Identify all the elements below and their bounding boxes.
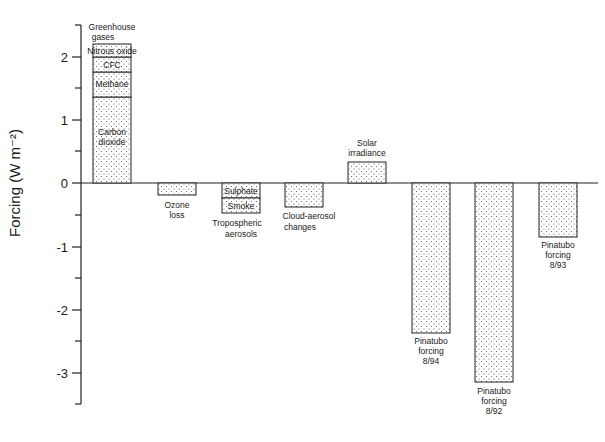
- bar-ozone-loss: [158, 183, 196, 195]
- svg-text:forcing: forcing: [418, 346, 444, 356]
- svg-text:8/94: 8/94: [423, 356, 440, 366]
- bar-pinatubo-8-93: [539, 183, 577, 237]
- y-axis: [72, 25, 81, 404]
- y-axis-label: Forcing (W m⁻²): [6, 129, 23, 237]
- svg-text:Sulphate: Sulphate: [224, 186, 258, 196]
- svg-text:Pinatubo: Pinatubo: [414, 336, 448, 346]
- bar-pinatubo-8-94: [412, 183, 450, 333]
- svg-text:gases: gases: [92, 32, 115, 42]
- svg-text:forcing: forcing: [545, 250, 571, 260]
- svg-text:Tropospheric: Tropospheric: [212, 218, 262, 228]
- bar-pinatubo-8-92: [475, 183, 513, 382]
- svg-text:irradiance: irradiance: [348, 148, 386, 158]
- svg-text:Nitrous oxide: Nitrous oxide: [87, 46, 137, 56]
- svg-text:Greenhouse: Greenhouse: [89, 22, 136, 32]
- svg-text:-3: -3: [56, 366, 68, 381]
- svg-text:Carbon: Carbon: [98, 127, 126, 137]
- svg-text:2: 2: [61, 50, 68, 65]
- svg-text:Methane: Methane: [95, 79, 128, 89]
- svg-text:Cloud-aerosol: Cloud-aerosol: [283, 211, 336, 221]
- svg-text:Solar: Solar: [357, 138, 377, 148]
- svg-text:changes: changes: [284, 222, 316, 232]
- svg-text:dioxide: dioxide: [99, 137, 126, 147]
- bar-cloud-aerosol: [285, 183, 323, 207]
- radiative-forcing-chart: 2 1 0 -1 -2 -3 Forcing (W m⁻²) Greenhous…: [0, 0, 605, 442]
- svg-text:Pinatubo: Pinatubo: [477, 386, 511, 396]
- svg-text:forcing: forcing: [481, 396, 507, 406]
- svg-text:aerosols: aerosols: [225, 229, 257, 239]
- svg-text:Ozone: Ozone: [164, 200, 189, 210]
- svg-text:0: 0: [61, 176, 68, 191]
- svg-text:1: 1: [61, 113, 68, 128]
- svg-text:8/92: 8/92: [486, 406, 503, 416]
- svg-text:loss: loss: [169, 210, 184, 220]
- svg-text:-1: -1: [56, 240, 68, 255]
- svg-text:CFC: CFC: [103, 60, 120, 70]
- svg-text:Smoke: Smoke: [228, 201, 255, 211]
- bar-solar: [348, 162, 386, 183]
- svg-text:Pinatubo: Pinatubo: [541, 240, 575, 250]
- svg-text:-2: -2: [56, 303, 68, 318]
- y-tick-labels: 2 1 0 -1 -2 -3: [56, 50, 68, 381]
- svg-text:8/93: 8/93: [550, 260, 567, 270]
